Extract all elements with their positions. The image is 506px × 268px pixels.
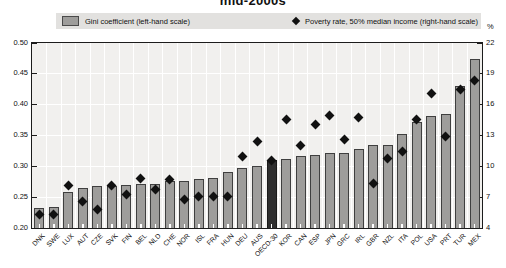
x-axis-tick — [126, 224, 128, 228]
legend-poverty-label: Poverty rate, 50% median income (right-h… — [305, 17, 478, 26]
v-gridline — [206, 43, 207, 228]
x-axis-tick — [82, 224, 84, 228]
v-gridline — [438, 43, 439, 228]
gini-bar-TUR — [455, 86, 465, 228]
right-axis-label: 7 — [486, 192, 504, 201]
x-axis-tick — [300, 224, 302, 228]
v-gridline — [191, 43, 192, 228]
left-axis-tick — [32, 135, 37, 136]
v-gridline — [423, 43, 424, 228]
left-axis-label: 0.40 — [2, 99, 28, 108]
h-gridline — [32, 104, 482, 105]
x-axis-tick — [329, 224, 331, 228]
gini-bar-USA — [426, 116, 436, 228]
v-gridline — [264, 43, 265, 228]
gini-bar-AUT — [78, 188, 88, 228]
poverty-diamond-BEL — [136, 174, 146, 184]
x-axis-tick — [416, 224, 418, 228]
x-axis-tick — [445, 224, 447, 228]
x-axis-tick — [271, 224, 273, 228]
gini-bar-SVK — [107, 186, 117, 228]
chart-figure: mid-2000s Gini coefficient (left-hand sc… — [0, 0, 506, 268]
v-gridline — [46, 43, 47, 228]
right-axis-label: 13 — [486, 130, 504, 139]
left-axis-label: 0.30 — [2, 161, 28, 170]
left-axis-tick — [32, 166, 37, 167]
v-gridline — [148, 43, 149, 228]
h-gridline — [32, 73, 482, 74]
v-gridline — [394, 43, 395, 228]
poverty-diamond-KOR — [281, 114, 291, 124]
v-gridline — [177, 43, 178, 228]
x-axis-tick — [474, 224, 476, 228]
x-axis-tick — [343, 224, 345, 228]
gini-bar-GRC — [339, 153, 349, 228]
v-gridline — [380, 43, 381, 228]
poverty-diamond-IRL — [354, 112, 364, 122]
x-axis-tick — [314, 224, 316, 228]
right-axis-label: 10 — [486, 161, 504, 170]
x-axis-tick — [155, 224, 157, 228]
v-gridline — [293, 43, 294, 228]
poverty-diamond-AUS — [252, 137, 262, 147]
left-axis-label: 0.45 — [2, 68, 28, 77]
legend-item-gini: Gini coefficient (left-hand scale) — [62, 16, 190, 26]
left-axis-tick — [32, 73, 37, 74]
poverty-diamond-JPN — [325, 111, 335, 121]
left-axis-label: 0.25 — [2, 192, 28, 201]
gini-bar-ISL — [194, 179, 204, 228]
left-axis-label: 0.35 — [2, 130, 28, 139]
right-axis-unit: % — [487, 22, 494, 31]
x-axis-tick — [401, 224, 403, 228]
v-gridline — [119, 43, 120, 228]
x-axis-tick — [140, 224, 142, 228]
diamond-swatch-icon — [292, 17, 300, 25]
left-axis-tick — [32, 197, 37, 198]
x-axis-tick — [53, 224, 55, 228]
gini-bar-DEU — [237, 168, 247, 228]
v-gridline — [322, 43, 323, 228]
gini-bar-KOR — [281, 159, 291, 228]
plot-area — [31, 42, 483, 229]
v-gridline — [452, 43, 453, 228]
left-axis-label: 0.50 — [2, 38, 28, 47]
poverty-diamond-ESP — [310, 119, 320, 129]
gini-bar-CHE — [165, 181, 175, 228]
x-axis-tick — [169, 224, 171, 228]
gini-bar-POL — [412, 122, 422, 228]
v-gridline — [61, 43, 62, 228]
right-axis-label: 22 — [486, 38, 504, 47]
v-gridline — [162, 43, 163, 228]
poverty-diamond-DEU — [238, 151, 248, 161]
gini-bar-FRA — [208, 178, 218, 228]
v-gridline — [278, 43, 279, 228]
right-axis-tick — [477, 43, 482, 44]
legend-gini-label: Gini coefficient (left-hand scale) — [85, 17, 190, 26]
right-axis-label: 4 — [486, 223, 504, 232]
gini-bar-BEL — [136, 184, 146, 228]
poverty-diamond-LUX — [63, 181, 73, 191]
v-gridline — [365, 43, 366, 228]
x-axis-tick — [430, 224, 432, 228]
x-axis-tick — [198, 224, 200, 228]
gini-bar-LUX — [63, 192, 73, 228]
v-gridline — [90, 43, 91, 228]
poverty-diamond-USA — [426, 88, 436, 98]
gini-bar-IRL — [354, 149, 364, 228]
chart-title: mid-2000s — [0, 0, 506, 8]
left-axis-label: 0.20 — [2, 223, 28, 232]
gini-bar-OECD-30 — [267, 160, 277, 228]
v-gridline — [409, 43, 410, 228]
v-gridline — [104, 43, 105, 228]
x-axis-tick — [459, 224, 461, 228]
x-axis-tick — [285, 224, 287, 228]
x-axis-tick — [111, 224, 113, 228]
poverty-diamond-GRC — [339, 135, 349, 145]
x-axis-tick — [242, 224, 244, 228]
chart-legend: Gini coefficient (left-hand scale) Pover… — [56, 13, 481, 29]
gini-bar-AUS — [252, 166, 262, 228]
x-axis-tick — [256, 224, 258, 228]
v-gridline — [235, 43, 236, 228]
x-axis-tick — [184, 224, 186, 228]
bar-swatch-icon — [62, 16, 79, 26]
